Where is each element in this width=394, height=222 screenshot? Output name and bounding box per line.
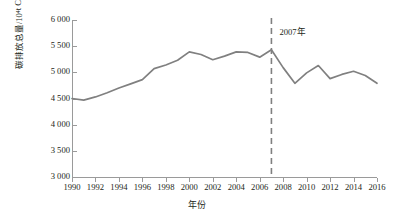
- x-tick-label: 2016: [362, 182, 392, 192]
- x-axis-title: 年份: [0, 198, 394, 211]
- carbon-emission-line-chart: 碳排放总量/104 t CO2当量 6 0005 5005 0004 5004 …: [0, 0, 394, 222]
- annotation-2007: 2007年: [279, 25, 305, 37]
- x-axis-tick-labels: 1990199219941996199820002002200420062008…: [0, 182, 394, 196]
- data-series-line: [72, 50, 377, 100]
